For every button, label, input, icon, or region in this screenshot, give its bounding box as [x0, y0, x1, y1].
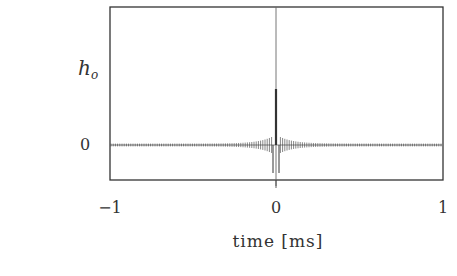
- y-tick-zero: 0: [80, 135, 90, 154]
- x-axis-label: time [ms]: [233, 231, 324, 251]
- x-tick-one: 1: [438, 198, 448, 217]
- plot-area: [0, 0, 457, 276]
- y-axis-label: ho: [78, 56, 98, 82]
- x-tick-zero: 0: [271, 198, 281, 217]
- x-tick-minus-one: −1: [98, 198, 122, 217]
